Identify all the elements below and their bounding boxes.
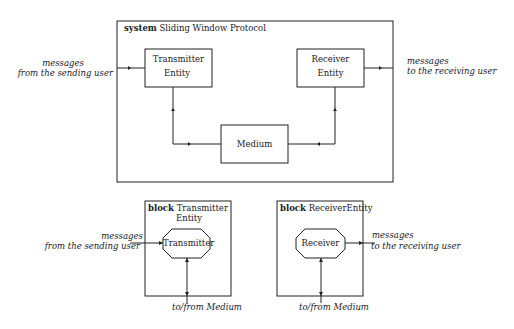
block-transmitter-title-2: Entity — [176, 213, 202, 223]
system-name: Sliding Window Protocol — [160, 23, 266, 33]
system-output-label-1: messages — [407, 56, 449, 66]
transmitter-process-label: Transmitter — [163, 238, 210, 248]
block-transmitter-input-label-2: from the sending user — [36, 241, 140, 251]
block-receiver-keyword: block — [280, 203, 306, 213]
block-transmitter-title-1: block Transmitter — [148, 203, 228, 213]
block-transmitter-keyword: block — [148, 203, 174, 213]
system-input-label-1: messages — [26, 58, 100, 68]
block-transmitter-input-label-1: messages — [92, 231, 152, 241]
diagram-canvas — [0, 0, 514, 329]
system-title: system Sliding Window Protocol — [124, 23, 266, 33]
medium-label: Medium — [221, 139, 288, 149]
receiver-process-label: Receiver — [296, 238, 345, 248]
block-receiver-output-label-1: messages — [372, 230, 414, 240]
block-receiver-frame — [277, 201, 363, 296]
transmitter-medium-channel — [173, 87, 221, 144]
transmitter-entity-label-1: Transmitter — [145, 54, 212, 64]
system-output-label-2: to the receiving user — [407, 66, 497, 76]
block-receiver-bottom-label: to/from Medium — [299, 302, 369, 312]
block-transmitter-bottom-label: to/from Medium — [172, 302, 242, 312]
block-receiver-output-label-2: to the receiving user — [371, 241, 461, 251]
system-keyword: system — [124, 23, 157, 33]
system-input-label-2: from the sending user — [10, 68, 113, 78]
system-frame — [117, 21, 393, 182]
receiver-entity-label-1: Receiver — [297, 54, 364, 64]
medium-receiver-channel — [288, 87, 335, 144]
block-receiver-title: block ReceiverEntity — [280, 203, 373, 213]
transmitter-entity-label-2: Entity — [164, 68, 190, 78]
receiver-entity-label-2: Entity — [297, 68, 364, 78]
